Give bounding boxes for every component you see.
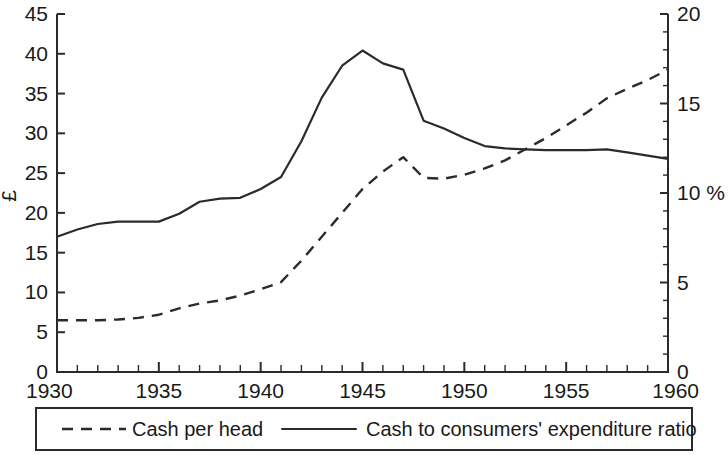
- y-axis-label-left: £: [0, 190, 20, 202]
- legend-label-1: Cash per head: [132, 418, 263, 440]
- x-axis-tick-label: 1930: [26, 379, 73, 402]
- y-axis-tick-label-left: 25: [25, 161, 48, 184]
- line-chart: 0510152025303540450510 %1520193019351940…: [0, 0, 728, 455]
- y-axis-tick-label-left: 15: [25, 241, 48, 264]
- axis-ticks: [57, 14, 668, 372]
- x-axis-tick-label: 1935: [135, 379, 182, 402]
- y-axis-tick-label-left: 40: [25, 42, 48, 65]
- y-axis-tick-label-left: 35: [25, 82, 48, 105]
- chart-legend: Cash per headCash to consumers' expendit…: [36, 408, 697, 450]
- y-axis-tick-label-right: 10 %: [677, 181, 725, 204]
- y-axis-tick-label-left: 20: [25, 201, 48, 224]
- x-axis-tick-label: 1955: [543, 379, 590, 402]
- y-axis-tick-label-right: 20: [677, 2, 700, 25]
- axes: [57, 14, 668, 372]
- data-series: [57, 51, 668, 321]
- x-axis-tick-label: 1950: [441, 379, 488, 402]
- x-axis-tick-label: 1945: [339, 379, 386, 402]
- y-axis-tick-label-right: 15: [677, 92, 700, 115]
- chart-figure: 0510152025303540450510 %1520193019351940…: [0, 0, 728, 455]
- y-axis-tick-label-left: 30: [25, 121, 48, 144]
- y-axis-tick-label-left: 45: [25, 2, 48, 25]
- y-axis-tick-label-right: 5: [677, 271, 689, 294]
- axis-tick-labels: 0510152025303540450510 %1520193019351940…: [25, 2, 725, 402]
- x-axis-tick-label: 1940: [237, 379, 284, 402]
- legend-label-2: Cash to consumers' expenditure ratio: [366, 418, 697, 440]
- series-line-1: [57, 70, 668, 321]
- y-axis-tick-label-left: 5: [36, 320, 48, 343]
- series-line-2: [57, 51, 668, 237]
- axis-spines: [57, 14, 668, 372]
- y-axis-tick-label-left: 10: [25, 280, 48, 303]
- x-axis-tick-label: 1960: [652, 379, 699, 402]
